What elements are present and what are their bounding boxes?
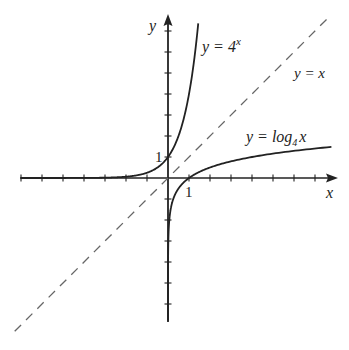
label-exp-curve: y = 4x bbox=[200, 35, 241, 56]
label-identity-line: y = x bbox=[292, 65, 325, 81]
identity-line-y-equals-x bbox=[15, 18, 328, 331]
x-tick-label-1: 1 bbox=[185, 184, 193, 200]
curve-y-equals-4-power-x bbox=[21, 23, 198, 178]
label-log-curve: y = log4x bbox=[244, 128, 306, 148]
x-axis-label: x bbox=[325, 184, 333, 201]
y-tick-label-1: 1 bbox=[155, 149, 163, 165]
y-axis-label: y bbox=[147, 17, 157, 35]
curve-y-equals-log4-x bbox=[168, 147, 331, 321]
function-graph: y x 1 1 y = 4x y = x y = log4x bbox=[0, 0, 349, 350]
